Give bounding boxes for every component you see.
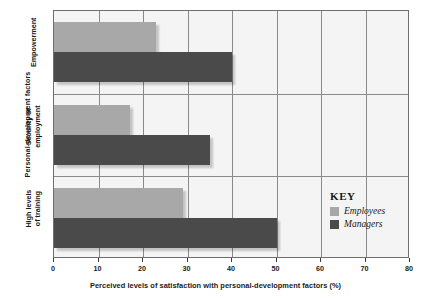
category-label-security-of-employment: Security ofemployment [25, 82, 42, 172]
legend-item-employees: Employees [330, 206, 416, 216]
x-axis-tick-label: 50 [261, 264, 291, 273]
category-label-empowerment: Empowerment [30, 0, 39, 87]
x-axis-tick-label: 80 [394, 264, 424, 273]
x-axis-tick [276, 258, 277, 262]
bar-managers-security-of-employment [54, 135, 210, 165]
bar-managers-high-levels-of-training [54, 218, 277, 248]
bar-managers-empowerment [54, 52, 232, 82]
category-label-high-levels-of-training: High levelsof training [25, 164, 42, 254]
bar-employees-security-of-employment [54, 105, 130, 135]
legend-item-managers: Managers [330, 219, 416, 229]
gridline-horizontal [54, 176, 408, 177]
x-axis-tick [231, 258, 232, 262]
chart-legend: KEY Employees Managers [330, 190, 416, 229]
gridline-horizontal [54, 94, 408, 95]
x-axis-tick [187, 258, 188, 262]
x-axis-tick-label: 40 [216, 264, 246, 273]
legend-swatch-managers [330, 220, 339, 229]
bar-employees-empowerment [54, 22, 156, 52]
x-axis-tick [142, 258, 143, 262]
x-axis-tick [53, 258, 54, 262]
legend-label-managers: Managers [344, 219, 383, 229]
x-axis-title: Perceived levels of satisfaction with pe… [0, 281, 431, 290]
legend-label-employees: Employees [344, 206, 385, 216]
bar-chart: Personal-development factors Empowerment… [0, 0, 431, 298]
x-axis-tick-label: 10 [83, 264, 113, 273]
x-axis-tick-label: 30 [172, 264, 202, 273]
x-axis-tick-label: 60 [305, 264, 335, 273]
x-axis-tick-label: 70 [350, 264, 380, 273]
gridline-vertical [321, 11, 322, 257]
bar-employees-high-levels-of-training [54, 188, 183, 218]
x-axis-tick-label: 20 [127, 264, 157, 273]
x-axis-tick [365, 258, 366, 262]
legend-title: KEY [330, 190, 416, 202]
x-axis-tick [409, 258, 410, 262]
gridline-vertical [277, 11, 278, 257]
legend-swatch-employees [330, 207, 339, 216]
x-axis-tick-label: 0 [38, 264, 68, 273]
x-axis-tick [98, 258, 99, 262]
x-axis-tick [320, 258, 321, 262]
